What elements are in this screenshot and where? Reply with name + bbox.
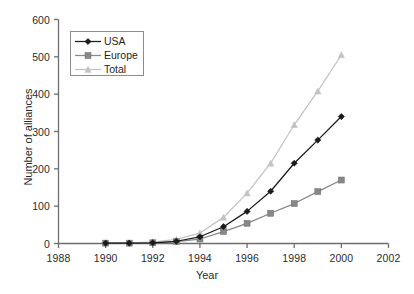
legend-label: USA bbox=[104, 34, 126, 49]
data-point-total-1999 bbox=[315, 88, 321, 94]
data-point-europe-1996 bbox=[244, 220, 250, 226]
data-point-europe-1997 bbox=[268, 210, 274, 216]
data-point-europe-1998 bbox=[291, 201, 297, 207]
series-europe bbox=[103, 177, 345, 246]
data-point-europe-2000 bbox=[338, 177, 344, 183]
x-tick-label-2002: 2002 bbox=[377, 252, 401, 264]
chart-plot-area bbox=[0, 0, 414, 294]
x-tick-label-1990: 1990 bbox=[94, 252, 118, 264]
legend-marker-triangle-icon bbox=[74, 62, 102, 77]
x-tick-label-1996: 1996 bbox=[235, 252, 259, 264]
y-tick-label-600: 600 bbox=[8, 14, 50, 26]
y-tick-label-0: 0 bbox=[8, 238, 50, 250]
legend-item-europe[interactable]: Europe bbox=[71, 48, 145, 63]
x-axis-title: Year bbox=[0, 269, 414, 281]
x-tick-label-1988: 1988 bbox=[47, 252, 71, 264]
legend-label: Europe bbox=[104, 48, 138, 63]
legend-marker-square-icon bbox=[74, 48, 102, 63]
legend-marker-diamond-icon bbox=[74, 34, 102, 49]
x-tick-label-1992: 1992 bbox=[141, 252, 165, 264]
data-point-total-2000 bbox=[338, 52, 344, 58]
series-usa bbox=[103, 113, 345, 246]
data-point-total-1997 bbox=[267, 160, 273, 166]
data-series bbox=[102, 52, 344, 246]
data-point-europe-1999 bbox=[315, 189, 321, 195]
y-axis-title: Number of alliances bbox=[22, 62, 34, 212]
x-tick-label-1994: 1994 bbox=[188, 252, 212, 264]
legend-label: Total bbox=[104, 62, 126, 77]
legend-item-usa[interactable]: USA bbox=[71, 34, 145, 49]
legend-item-total[interactable]: Total bbox=[71, 62, 145, 77]
chart-legend: USAEuropeTotal bbox=[70, 31, 144, 76]
alliances-line-chart: 0100200300400500600 19881990199219941996… bbox=[0, 0, 414, 294]
x-tick-label-2000: 2000 bbox=[329, 252, 353, 264]
x-tick-label-1998: 1998 bbox=[282, 252, 306, 264]
